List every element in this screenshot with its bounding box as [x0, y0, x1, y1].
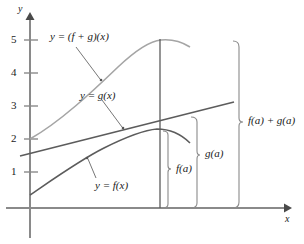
g-of-a-label: g(a)	[205, 148, 223, 159]
sum-curve-leader-dot	[100, 79, 103, 82]
f-curve-label: y = f(x)	[95, 180, 128, 191]
f-of-a-label: f(a)	[176, 163, 192, 174]
f-of-a-brace	[163, 131, 171, 208]
x-axis-label: x	[285, 214, 289, 224]
y-axis-arrowhead	[26, 12, 35, 20]
y-tick-label-1: 1	[11, 166, 17, 177]
sum-curve-label: y = (f + g)(x)	[50, 31, 109, 42]
y-tick-label-3: 3	[11, 100, 17, 111]
function-sum-graph-figure: y x 5 4 3 2 1 y = (f + g)(x) y = g(x) y …	[0, 0, 304, 244]
g-curve-leader-line	[102, 100, 122, 127]
f-curve-leader-dot	[86, 157, 89, 160]
y-tick-label-5: 5	[11, 34, 17, 45]
sum-curve-leader-line	[76, 47, 100, 79]
g-curve-leader-dot	[122, 127, 125, 130]
g-curve-label: y = g(x)	[80, 90, 116, 101]
x-axis-arrowhead	[284, 204, 292, 213]
f-curve-leader-line	[88, 159, 96, 178]
g-curve-path	[20, 102, 234, 156]
g-of-a-brace	[191, 117, 200, 208]
y-tick-label-2: 2	[11, 133, 17, 144]
y-tick-label-4: 4	[11, 67, 17, 78]
f-plus-g-of-a-label: f(a) + g(a)	[248, 115, 295, 126]
y-axis-label: y	[18, 4, 22, 14]
f-plus-g-of-a-brace	[233, 41, 243, 208]
